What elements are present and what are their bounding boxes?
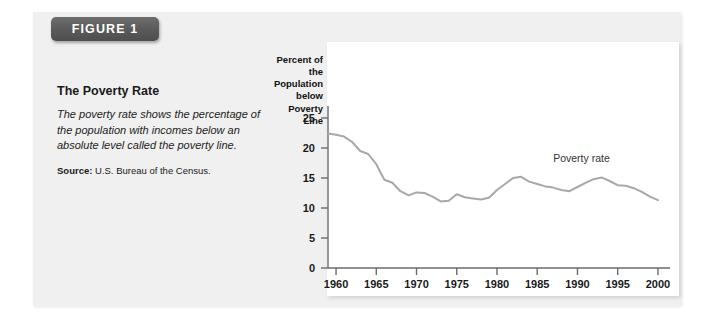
x-tick-label: 1975 <box>445 278 469 290</box>
chart-series <box>328 134 658 202</box>
x-tick-label: 1960 <box>324 278 348 290</box>
chart-axes <box>328 106 670 268</box>
series-line-poverty-rate <box>328 134 658 202</box>
y-tick-label: 25 <box>303 112 315 124</box>
poverty-rate-line-chart: 0510152025 19601965197019751980198519901… <box>33 12 681 306</box>
x-tick-label: 1985 <box>525 278 549 290</box>
y-tick-label: 20 <box>303 142 315 154</box>
series-annotation-label: Poverty rate <box>553 152 610 164</box>
x-tick-label: 1970 <box>404 278 428 290</box>
y-tick-label: 5 <box>309 232 315 244</box>
figure-card: FIGURE 1 The Poverty Rate The poverty ra… <box>33 12 681 306</box>
y-tick-label: 15 <box>303 172 315 184</box>
chart-annotations: Poverty rate <box>553 152 610 164</box>
x-tick-label: 1995 <box>605 278 629 290</box>
x-tick-label: 1965 <box>364 278 388 290</box>
x-tick-label: 1980 <box>485 278 509 290</box>
y-axis-ticks: 0510152025 <box>303 112 328 274</box>
y-tick-label: 10 <box>303 202 315 214</box>
x-axis-ticks: 196019651970197519801985199019952000 <box>324 268 670 290</box>
y-tick-label: 0 <box>309 262 315 274</box>
x-tick-label: 2000 <box>646 278 670 290</box>
x-tick-label: 1990 <box>565 278 589 290</box>
